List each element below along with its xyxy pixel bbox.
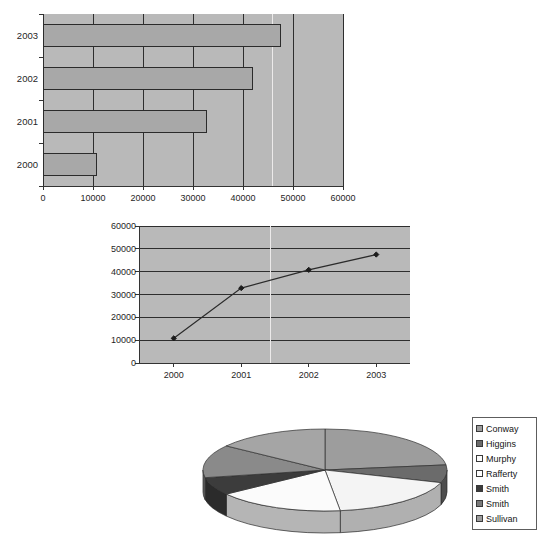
bar-chart-x-tick-label: 50000 [268, 193, 318, 203]
legend-item[interactable]: Higgins [476, 436, 534, 451]
line-chart-y-tick-label: 40000 [92, 267, 136, 277]
legend-item[interactable]: Smith [476, 496, 534, 511]
pie-chart-legend: ConwayHigginsMurphyRaffertySmithSmithSul… [472, 417, 537, 530]
bar-chart-y-tick [39, 186, 43, 187]
legend-swatch-icon [476, 500, 483, 507]
bar-chart-gridline [343, 14, 344, 186]
line-chart-x-tick [308, 363, 309, 367]
line-chart-y-tick-label: 50000 [92, 244, 136, 254]
line-chart-x-tick [241, 363, 242, 367]
bar-chart-category-label: 2001 [2, 117, 38, 127]
line-chart-x-tick-label: 2002 [287, 370, 331, 380]
bar-chart-x-tick-label: 0 [18, 193, 68, 203]
line-chart-series [140, 226, 410, 363]
pie-chart [175, 412, 475, 537]
bar-chart: 0100002000030000400005000060000 20032002… [0, 0, 400, 212]
bar-chart-bar [43, 67, 253, 90]
line-chart-y-tick-label: 20000 [92, 312, 136, 322]
legend-item[interactable]: Smith [476, 481, 534, 496]
legend-item[interactable]: Sullivan [476, 511, 534, 526]
bar-chart-bar [43, 153, 97, 176]
line-chart-y-tick-label: 60000 [92, 221, 136, 231]
bar-chart-x-tick [143, 186, 144, 190]
line-chart-x-tick-label: 2003 [354, 370, 398, 380]
legend-item[interactable]: Murphy [476, 451, 534, 466]
legend-swatch-icon [476, 425, 483, 432]
legend-item-label: Rafferty [486, 469, 517, 479]
bar-chart-y-tick [39, 143, 43, 144]
legend-item-label: Sullivan [486, 514, 518, 524]
bar-chart-bar [43, 110, 207, 133]
bar-chart-x-tick-label: 60000 [318, 193, 368, 203]
legend-swatch-icon [476, 440, 483, 447]
legend-swatch-icon [476, 470, 483, 477]
legend-item-label: Smith [486, 484, 509, 494]
line-chart-y-tick-label: 10000 [92, 335, 136, 345]
legend-item[interactable]: Conway [476, 421, 534, 436]
line-chart-y-axis-line [139, 226, 140, 364]
bar-chart-x-tick [193, 186, 194, 190]
legend-item-label: Higgins [486, 439, 516, 449]
line-chart-y-tick-label: 0 [92, 358, 136, 368]
pie-chart-canvas [175, 412, 475, 537]
line-chart-x-tick [376, 363, 377, 367]
legend-item[interactable]: Rafferty [476, 466, 534, 481]
bar-chart-y-tick [39, 100, 43, 101]
bar-chart-x-tick [243, 186, 244, 190]
legend-swatch-icon [476, 515, 483, 522]
legend-item-label: Murphy [486, 454, 516, 464]
bar-chart-category-label: 2000 [2, 160, 38, 170]
line-chart-x-axis-line [139, 363, 410, 364]
bar-chart-y-tick [39, 57, 43, 58]
line-chart-x-tick-label: 2001 [219, 370, 263, 380]
legend-item-label: Conway [486, 424, 519, 434]
bar-chart-bar [43, 24, 281, 47]
legend-item-label: Smith [486, 499, 509, 509]
bar-chart-x-tick [293, 186, 294, 190]
legend-swatch-icon [476, 455, 483, 462]
bar-chart-x-tick-label: 20000 [118, 193, 168, 203]
bar-chart-y-tick [39, 14, 43, 15]
bar-chart-x-tick-label: 10000 [68, 193, 118, 203]
bar-chart-category-label: 2003 [2, 31, 38, 41]
bar-chart-x-tick [93, 186, 94, 190]
bar-chart-x-tick-label: 40000 [218, 193, 268, 203]
bar-chart-x-tick [343, 186, 344, 190]
line-chart-x-tick [173, 363, 174, 367]
bar-chart-gridline [293, 14, 294, 186]
bar-chart-x-tick-label: 30000 [168, 193, 218, 203]
line-chart-y-tick-label: 30000 [92, 290, 136, 300]
legend-swatch-icon [476, 485, 483, 492]
line-chart-x-tick-label: 2000 [152, 370, 196, 380]
bar-chart-category-label: 2002 [2, 74, 38, 84]
line-chart: 0100002000030000400005000060000 20002001… [100, 218, 450, 388]
